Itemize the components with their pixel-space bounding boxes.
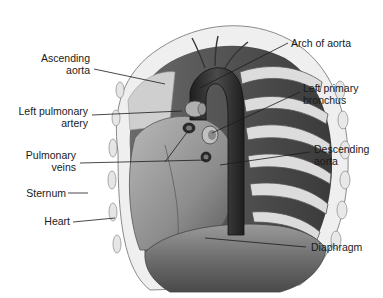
label-heart: Heart — [26, 215, 70, 227]
leader-heart — [73, 218, 115, 222]
label-descending-aorta: Descending aorta — [314, 143, 369, 167]
label-left-pulmonary-artery: Left pulmonary artery — [14, 105, 88, 129]
label-left-primary-bronchus: Left primary bronchus — [303, 82, 358, 106]
label-pulmonary-veins: Pulmonary veins — [20, 149, 76, 173]
label-ascending-aorta: Ascending aorta — [36, 52, 90, 76]
label-arch-of-aorta: Arch of aorta — [291, 37, 351, 49]
label-sternum: Sternum — [16, 187, 66, 199]
label-diaphragm: Diaphragm — [311, 241, 362, 253]
thoracic-anatomy-diagram: Ascending aorta Left pulmonary artery Pu… — [0, 0, 383, 298]
